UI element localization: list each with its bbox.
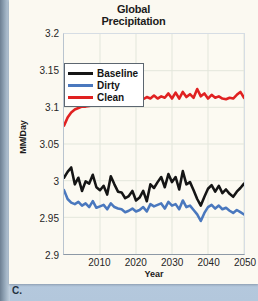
y-tick-label: 3 — [13, 176, 59, 187]
legend-color-swatch — [68, 84, 93, 87]
y-tick-label: 3.2 — [13, 28, 59, 39]
chart-title-line-2: Precipitation — [9, 15, 258, 27]
y-tick-label: 3.05 — [13, 139, 59, 150]
x-tick-label: 2020 — [125, 257, 147, 268]
x-tick-label: 2030 — [161, 257, 183, 268]
chart-legend: BaselineDirtyClean — [64, 63, 144, 107]
series-line-dirty — [64, 190, 244, 221]
y-tick-label: 3.15 — [13, 65, 59, 76]
legend-item: Baseline — [68, 67, 138, 79]
series-line-baseline — [64, 167, 244, 205]
x-tick-label: 2050 — [234, 257, 256, 268]
legend-item-label: Clean — [97, 92, 124, 103]
y-tick-label: 3.1 — [13, 102, 59, 113]
legend-color-swatch — [68, 96, 93, 99]
x-tick-label: 2010 — [88, 257, 110, 268]
series-lines — [64, 89, 244, 221]
y-tick-label: 2.9 — [13, 250, 59, 261]
chart-panel: Global Precipitation MM/Day 2.92.9533.05… — [9, 0, 258, 284]
y-axis-tick-labels: 2.92.9533.053.13.153.2 — [13, 33, 59, 255]
chart-title: Global Precipitation — [9, 3, 258, 27]
chart-title-line-1: Global — [9, 3, 258, 15]
legend-color-swatch — [68, 72, 93, 75]
figure-root: Global Precipitation MM/Day 2.92.9533.05… — [0, 0, 258, 301]
figure-caption-letter: C. — [12, 285, 22, 296]
x-axis-label: Year — [63, 269, 245, 279]
x-tick-label: 2040 — [197, 257, 219, 268]
y-tick-label: 2.95 — [13, 213, 59, 224]
legend-item: Dirty — [68, 79, 138, 91]
legend-item-label: Dirty — [97, 80, 120, 91]
legend-item-label: Baseline — [97, 68, 138, 79]
legend-item: Clean — [68, 91, 138, 103]
